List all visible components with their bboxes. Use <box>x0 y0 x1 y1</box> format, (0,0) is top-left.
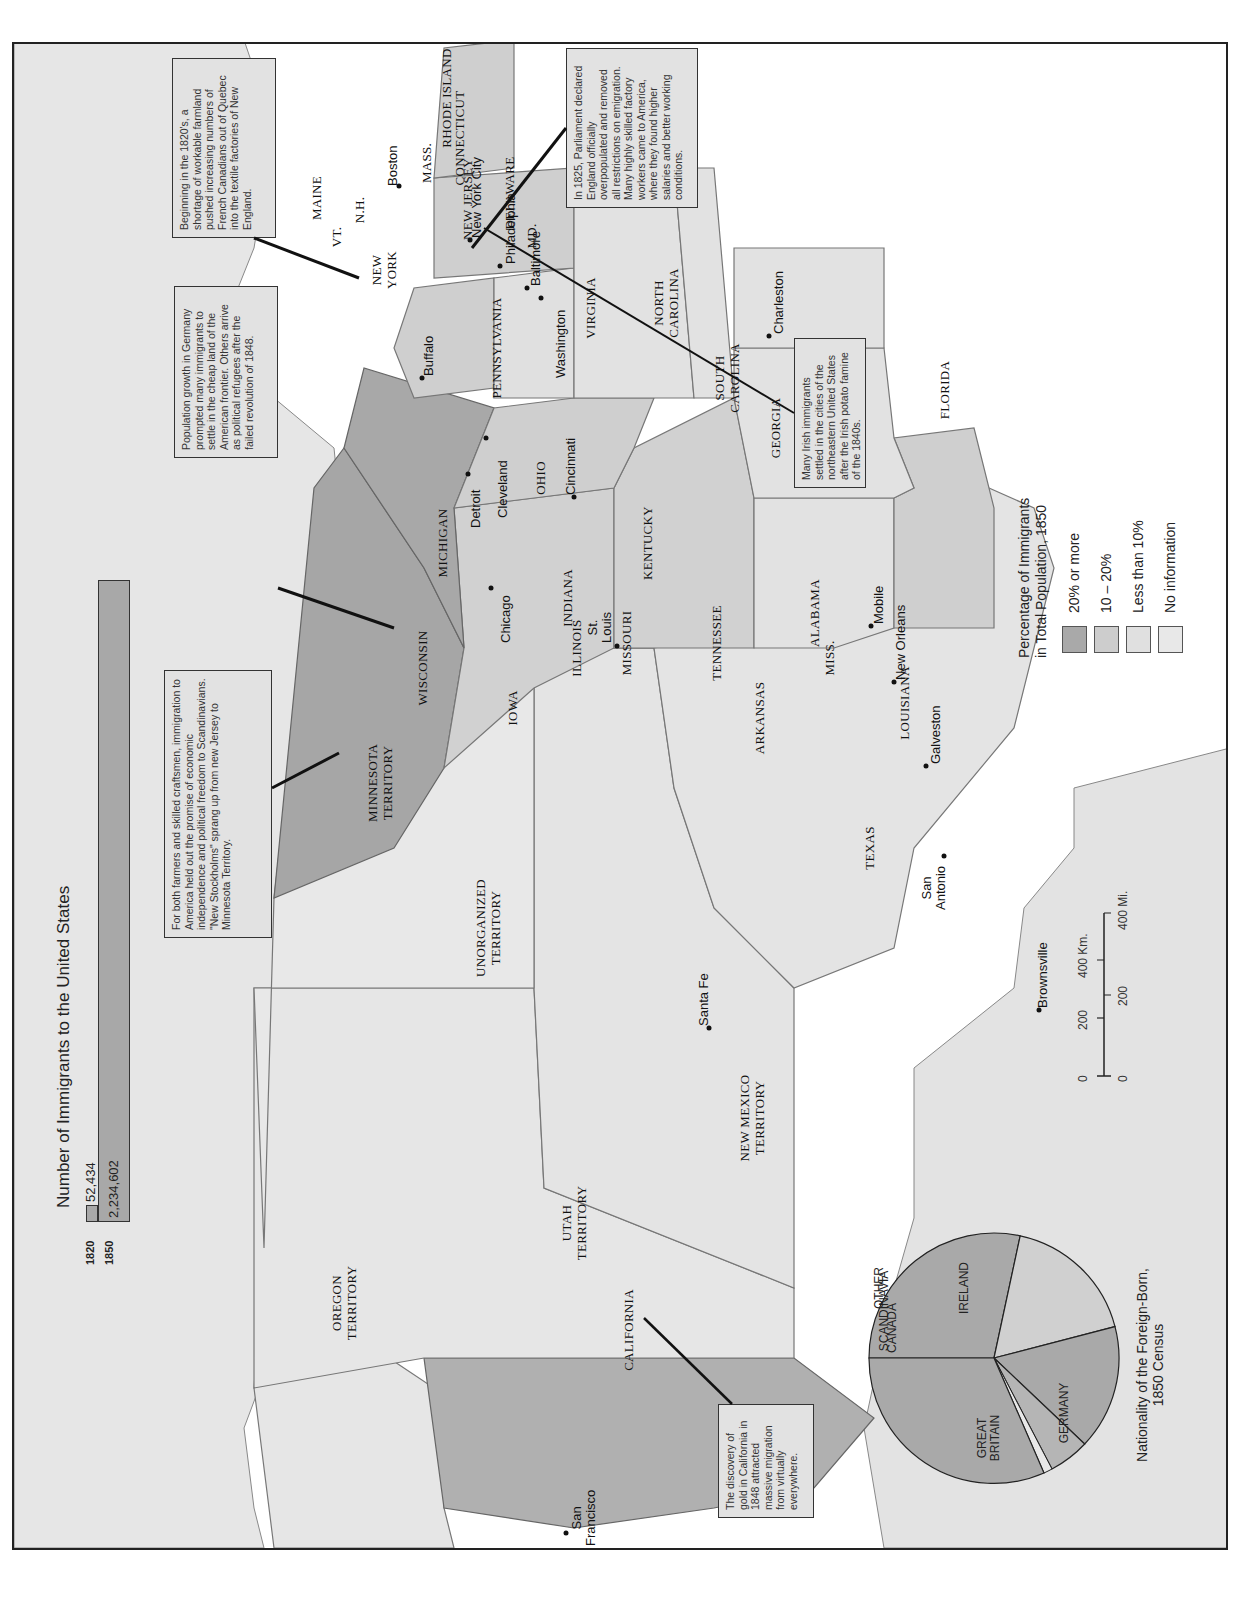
city-new-orleans: New Orleans <box>894 605 908 680</box>
legend-swatch-20-plus <box>1062 626 1087 653</box>
label-pennsylvania: PENNSYLVANIA <box>489 297 504 398</box>
scale-km-0: 0 <box>1076 1075 1090 1082</box>
city-dot-cleveland <box>484 436 489 441</box>
city-baltimore: Baltimore <box>529 231 543 286</box>
pie-chart-title: Nationality of the Foreign-Born,1850 Cen… <box>1134 1230 1166 1500</box>
legend-label-20-plus: 20% or more <box>1066 533 1082 613</box>
note-germany: Population growth in Germany prompted ma… <box>174 286 278 458</box>
pie-label-canada: CANADA <box>886 1303 899 1353</box>
legend-swatch-no-info <box>1158 626 1183 653</box>
city-san-francisco: SanFrancisco <box>570 1490 598 1546</box>
note-irish: Many Irish immigrants settled in the cit… <box>794 338 866 488</box>
scale-km-200: 200 <box>1076 1010 1090 1030</box>
city-dot-detroit <box>466 472 471 477</box>
bar-chart-title: Number of Immigrants to the United State… <box>54 886 74 1208</box>
bar-1820 <box>86 1205 98 1222</box>
label-missouri: MISSOURI <box>619 611 634 676</box>
city-dot-galveston <box>924 764 929 769</box>
label-oregon-territory: OREGONTERRITORY <box>329 1266 359 1341</box>
city-charleston: Charleston <box>772 271 786 334</box>
label-indiana: INDIANA <box>560 569 575 627</box>
pie-label-great-britain: GREATBRITAIN <box>976 1415 1002 1461</box>
scale-km-400: 400 Km. <box>1076 933 1090 978</box>
city-washington: Washington <box>554 310 568 378</box>
pie-label-ireland: IRELAND <box>958 1262 971 1314</box>
city-detroit: Detroit <box>469 490 483 528</box>
scale-mi-200: 200 <box>1116 986 1130 1006</box>
legend-label-less-10: Less than 10% <box>1130 520 1146 613</box>
legend-title: Percentage of Immigrantsin Total Populat… <box>1016 498 1050 658</box>
bar-value-1850: 2,234,602 <box>106 1160 121 1218</box>
city-nyc: New York City <box>470 157 484 238</box>
note-england: In 1825, Parliament declared England off… <box>566 48 698 208</box>
city-cleveland: Cleveland <box>496 460 510 518</box>
label-ohio: OHIO <box>533 461 548 495</box>
bar-year-1850: 1850 <box>103 1241 115 1265</box>
label-arkansas: ARKANSAS <box>752 682 767 754</box>
pie-label-germany: GERMANY <box>1058 1383 1071 1444</box>
label-california: CALIFORNIA <box>621 1289 636 1371</box>
note-scandinavia: For both farmers and skilled craftsmen, … <box>164 670 272 938</box>
city-chicago: Chicago <box>499 595 513 643</box>
city-dot-mobile <box>869 624 874 629</box>
label-new-mexico-territory: NEW MEXICOTERRITORY <box>737 1075 767 1162</box>
scale-mi-400: 400 Mi. <box>1116 891 1130 930</box>
map-frame: MAINE N.H. VT. MASS. RHODE ISLAND CONNEC… <box>12 42 1228 1550</box>
note-california: The discovery of gold in California in 1… <box>718 1404 814 1518</box>
city-dot-chicago <box>489 586 494 591</box>
scale-bar <box>1089 878 1119 1078</box>
label-mass: MASS. <box>419 143 434 183</box>
legend-label-10-20: 10 – 20% <box>1098 554 1114 613</box>
label-mississippi: MISS. <box>822 640 837 675</box>
label-vt: VT. <box>329 227 344 248</box>
city-buffalo: Buffalo <box>422 336 436 376</box>
label-tennessee: TENNESSEE <box>709 605 724 681</box>
note-quebec: Beginning in the 1820's, a shortage of w… <box>172 58 276 238</box>
label-south-carolina: SOUTHCAROLINA <box>712 343 742 413</box>
city-san-antonio: SanAntonio <box>920 866 948 910</box>
label-unorganized-territory: UNORGANIZEDTERRITORY <box>473 879 503 977</box>
city-dot-baltimore <box>525 286 530 291</box>
legend-label-no-info: No information <box>1162 522 1178 613</box>
label-kentucky: KENTUCKY <box>640 506 655 580</box>
city-boston: Boston <box>386 146 400 186</box>
city-dot-san-francisco <box>564 1531 569 1536</box>
label-utah-territory: UTAHTERRITORY <box>559 1186 589 1261</box>
city-st-louis: St.Louis <box>586 612 614 643</box>
bar-value-1820: 52,434 <box>83 1162 98 1202</box>
label-florida: FLORIDA <box>937 361 952 419</box>
scale-mi-0: 0 <box>1116 1075 1130 1082</box>
label-minnesota-territory: MINNESOTATERRITORY <box>365 744 395 822</box>
city-dot-buffalo <box>420 376 425 381</box>
label-maine: MAINE <box>309 176 324 220</box>
city-dot-brownsville <box>1037 1008 1042 1013</box>
legend-swatch-10-20 <box>1094 626 1119 653</box>
label-north-carolina: NORTHCAROLINA <box>651 268 681 338</box>
city-galveston: Galveston <box>929 705 943 764</box>
city-philadelphia: Philadelphia <box>504 193 518 264</box>
city-dot-new-orleans <box>892 680 897 685</box>
label-michigan: MICHIGAN <box>435 509 450 578</box>
city-dot-charleston <box>767 334 772 339</box>
city-dot-san-antonio <box>942 854 947 859</box>
label-texas: TEXAS <box>862 826 877 869</box>
label-new-york: NEWYORK <box>369 251 399 289</box>
city-dot-philadelphia <box>498 264 503 269</box>
label-virginia: VIRGINIA <box>583 277 598 339</box>
label-nh: N.H. <box>352 197 367 223</box>
legend-swatch-less-10 <box>1126 626 1151 653</box>
city-santa-fe: Santa Fe <box>697 973 711 1026</box>
label-iowa: IOWA <box>505 690 520 725</box>
city-dot-cincinnati <box>572 495 577 500</box>
city-dot-nyc <box>468 238 473 243</box>
city-brownsville: Brownsville <box>1036 942 1050 1008</box>
city-dot-santa-fe <box>707 1026 712 1031</box>
label-georgia: GEORGIA <box>768 398 783 459</box>
city-mobile: Mobile <box>872 586 886 624</box>
city-dot-washington <box>539 296 544 301</box>
label-illinois: ILLINOIS <box>569 619 584 676</box>
city-cincinnati: Cincinnati <box>564 438 578 495</box>
map-page: MAINE N.H. VT. MASS. RHODE ISLAND CONNEC… <box>0 0 1257 1599</box>
label-alabama: ALABAMA <box>807 579 822 647</box>
label-wisconsin: WISCONSIN <box>415 631 430 706</box>
